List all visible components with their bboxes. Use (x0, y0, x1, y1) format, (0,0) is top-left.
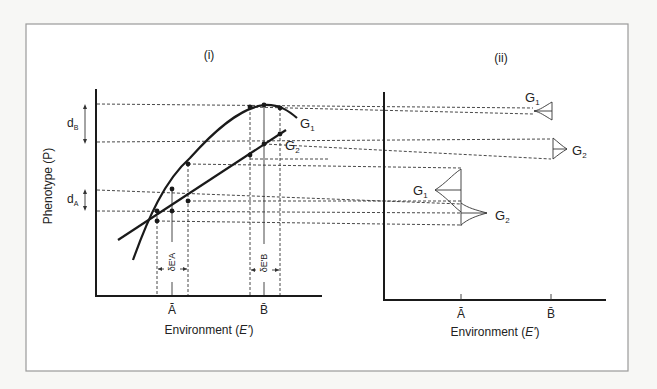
reaction-norm-figure: (i) Phenotype (P) dB dA (0, 0, 657, 389)
x-tick-a: Ā (168, 303, 176, 317)
x-tick-a-ii: Ā (457, 307, 465, 321)
x-tick-b-ii: B̄ (547, 307, 555, 321)
x-axis-label-ii: Environment (E') (451, 325, 540, 339)
y-axis-label: Phenotype (P) (41, 148, 55, 225)
svg-text:δE'B: δE'B (259, 254, 269, 273)
svg-text:δE'A: δE'A (167, 253, 177, 272)
panel-ii-label: (ii) (494, 51, 507, 65)
x-tick-b: B̄ (260, 303, 268, 317)
figure-frame (26, 24, 628, 371)
panel-i-label: (i) (204, 48, 215, 62)
x-axis-label: Environment (E') (165, 323, 254, 337)
